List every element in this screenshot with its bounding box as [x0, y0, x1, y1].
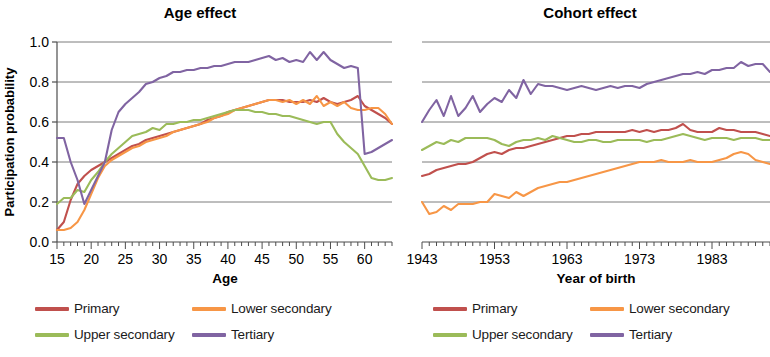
x-axis-tick-label: 1983 [696, 251, 727, 267]
y-axis-tick-label: 0.8 [30, 74, 50, 90]
legend-label: Tertiary [629, 327, 672, 342]
series-line-lower-secondary [57, 96, 392, 230]
legend-swatch-icon [590, 333, 624, 337]
x-axis-tick-label: 55 [323, 251, 339, 267]
x-axis-tick-label: 1963 [551, 251, 582, 267]
legend-label: Lower secondary [231, 301, 332, 316]
x-axis-tick-label: 50 [288, 251, 304, 267]
x-axis-tick-label: 60 [357, 251, 373, 267]
legend-swatch-icon [192, 307, 226, 311]
x-axis-tick-label: 30 [152, 251, 168, 267]
legend-label: Lower secondary [629, 301, 730, 316]
legend-swatch-icon [192, 333, 226, 337]
x-axis-tick-label: 15 [49, 251, 65, 267]
cohort-x-axis-title: Year of birth [557, 271, 636, 286]
figure-root: Age effect Participation probability 0.0… [0, 0, 770, 357]
age-effect-svg: Age effect Participation probability 0.0… [0, 0, 400, 290]
y-axis-tick-label: 0.6 [30, 114, 50, 130]
legend-swatch-icon [433, 307, 467, 311]
age-plot-area: 0.00.20.40.60.81.015202530354045505560 [30, 34, 392, 267]
legend-swatch-icon [35, 333, 69, 337]
cohort-plot-area: 19431953196319731983 [406, 42, 770, 267]
x-axis-tick-label: 1953 [479, 251, 510, 267]
x-axis-tick-label: 40 [220, 251, 236, 267]
x-axis-tick-label: 1973 [624, 251, 655, 267]
chart-panel-age: Age effect Participation probability 0.0… [0, 0, 400, 290]
x-axis-tick-label: 1943 [406, 251, 437, 267]
legend-item-tertiary: Tertiary [590, 327, 672, 342]
age-chart-title: Age effect [164, 4, 237, 21]
cohort-effect-svg: Cohort effect 19431953196319731983 Year … [400, 0, 770, 290]
age-y-axis-title: Participation probability [2, 67, 17, 217]
series-line-tertiary [422, 62, 770, 122]
y-axis-tick-label: 0.2 [30, 194, 50, 210]
legend-cohort-effect: PrimaryLower secondaryUpper secondaryTer… [385, 293, 770, 355]
x-axis-tick-label: 45 [254, 251, 270, 267]
legend-item-primary: Primary [35, 301, 119, 316]
legend-item-lower-secondary: Lower secondary [192, 301, 332, 316]
legend-label: Primary [472, 301, 517, 316]
y-axis-tick-label: 0.0 [30, 234, 50, 250]
series-line-upper-secondary [57, 110, 392, 204]
legend-label: Upper secondary [472, 327, 573, 342]
x-axis-tick-label: 20 [83, 251, 99, 267]
series-line-tertiary [57, 52, 392, 204]
y-axis-tick-label: 1.0 [30, 34, 50, 50]
legend-swatch-icon [433, 333, 467, 337]
x-axis-tick-label: 25 [118, 251, 134, 267]
y-axis-tick-label: 0.4 [30, 154, 50, 170]
legend-item-lower-secondary: Lower secondary [590, 301, 730, 316]
legend-item-upper-secondary: Upper secondary [433, 327, 573, 342]
legend-item-tertiary: Tertiary [192, 327, 274, 342]
legend-item-primary: Primary [433, 301, 517, 316]
legend-swatch-icon [590, 307, 624, 311]
series-line-upper-secondary [422, 134, 770, 150]
age-x-axis-title: Age [212, 271, 238, 286]
chart-panel-cohort: Cohort effect 19431953196319731983 Year … [400, 0, 770, 290]
legend-label: Primary [74, 301, 119, 316]
x-axis-tick-label: 35 [186, 251, 202, 267]
series-line-primary [422, 124, 770, 176]
legend-label: Upper secondary [74, 327, 175, 342]
cohort-chart-title: Cohort effect [543, 4, 636, 21]
legend-swatch-icon [35, 307, 69, 311]
legend-label: Tertiary [231, 327, 274, 342]
legend-age-effect: PrimaryLower secondaryUpper secondaryTer… [0, 293, 385, 355]
legend-item-upper-secondary: Upper secondary [35, 327, 175, 342]
